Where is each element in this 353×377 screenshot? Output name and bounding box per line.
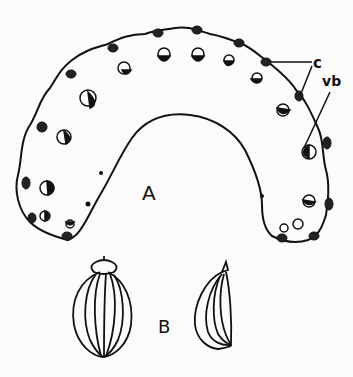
vascular-bundles-vb — [40, 48, 316, 232]
label-vb: vb — [322, 73, 341, 89]
fruit-side-view — [195, 262, 231, 349]
label-a: A — [142, 181, 156, 205]
label-b: B — [158, 316, 170, 337]
fruit-front-view — [73, 256, 131, 357]
figure-canvas: c vb A B — [0, 0, 353, 377]
small-dots — [86, 171, 265, 207]
label-c: c — [313, 54, 322, 72]
